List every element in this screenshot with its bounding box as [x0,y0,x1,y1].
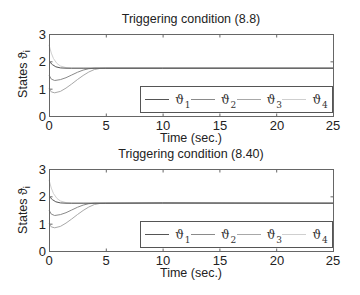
legend-top: ϑ1 ϑ2 ϑ3 ϑ4 [140,86,333,113]
legend-line-swatch [145,99,169,100]
legend-item-theta-2: ϑ2 [191,93,236,107]
legend-line-swatch [145,234,169,235]
legend-line-swatch [191,234,215,235]
legend-item-theta-1: ϑ1 [145,228,190,242]
legend-item-theta-2: ϑ2 [191,228,236,242]
legend-item-theta-4: ϑ4 [282,228,327,242]
series-line [49,68,333,80]
legend-line-swatch [237,234,261,235]
legend-line-swatch [191,99,215,100]
series-line [49,203,333,215]
legend-line-swatch [282,234,306,235]
legend-item-theta-3: ϑ3 [237,93,282,107]
series-line [49,196,333,203]
legend-item-theta-3: ϑ3 [237,228,282,242]
legend-bottom: ϑ1 ϑ2 ϑ3 ϑ4 [140,221,333,248]
legend-item-theta-1: ϑ1 [145,93,190,107]
series-line [49,180,333,203]
legend-line-swatch [282,99,306,100]
plot-canvas [0,0,360,295]
legend-line-swatch [237,99,261,100]
series-line [49,61,333,68]
series-line [49,45,333,68]
legend-item-theta-4: ϑ4 [282,93,327,107]
